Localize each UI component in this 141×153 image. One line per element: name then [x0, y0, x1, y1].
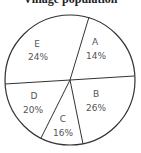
slice-d-value: 20% — [23, 105, 43, 115]
slice-c-name: C — [60, 114, 66, 124]
slice-d-name: D — [31, 91, 38, 101]
slice-b-value: 26% — [86, 103, 106, 113]
slice-a-value: 14% — [86, 51, 106, 61]
slice-a-name: A — [92, 37, 99, 47]
slice-b-name: B — [93, 89, 99, 99]
pie-chart: A 14% B 26% C 16% D 20% E 24% — [0, 0, 141, 153]
slice-e-name: E — [34, 39, 40, 49]
slice-c-value: 16% — [53, 128, 73, 138]
slice-e-value: 24% — [28, 52, 48, 62]
